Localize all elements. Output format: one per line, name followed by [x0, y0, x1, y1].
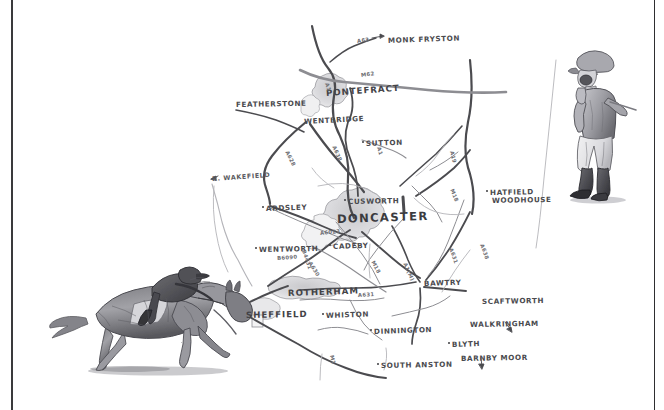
- road-label-a631: A631: [358, 291, 375, 298]
- town-label-woodhouse: WOODHOUSE: [492, 195, 552, 205]
- town-label-sheffield: SHEFFIELD: [246, 309, 308, 320]
- town-label-wentworth: WENTWORTH: [259, 244, 318, 254]
- standing-jockey-illustration: [552, 44, 642, 224]
- town-label-cadeby: CADEBY: [333, 241, 369, 251]
- town-label-barnby-moor: BARNBY MOOR: [461, 353, 528, 363]
- town-label-sutton: SUTTON: [366, 138, 403, 148]
- town-label-walkringham: WALKRINGHAM: [470, 319, 539, 329]
- town-label-scaftworth: SCAFTWORTH: [482, 296, 544, 306]
- town-label-blyth: BLYTH: [452, 339, 480, 349]
- town-label-whiston: WHISTON: [326, 310, 369, 320]
- town-label-featherstone: FEATHERSTONE: [236, 99, 307, 109]
- town-label-south-anston: SOUTH ANSTON: [381, 360, 453, 370]
- map-page: MONK FRYSTONPONTEFRACTFEATHERSTONEWENTBR…: [0, 0, 664, 410]
- town-label-ardsley: ARDSLEY: [266, 203, 307, 213]
- galloping-racehorse-and-jockey-illustration: [48, 240, 258, 390]
- town-label-cusworth: CUSWORTH: [348, 196, 399, 206]
- town-label-bawtry: BAWTRY: [424, 278, 462, 288]
